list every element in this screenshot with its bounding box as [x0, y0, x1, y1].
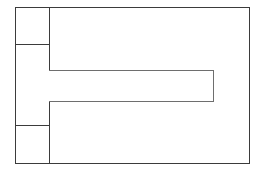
sidebar-horizontal-divider-1	[15, 44, 49, 45]
sidebar-cell-top[interactable]	[16, 8, 48, 44]
sidebar-cell-middle[interactable]	[16, 45, 48, 125]
sidebar-cell-bottom[interactable]	[16, 126, 48, 163]
sidebar-horizontal-divider-2	[15, 125, 49, 126]
content-bar[interactable]	[49, 70, 214, 102]
diagram-canvas: Wireframe layout diagram	[0, 0, 260, 170]
diagram-title: Wireframe layout diagram	[0, 0, 1, 1]
